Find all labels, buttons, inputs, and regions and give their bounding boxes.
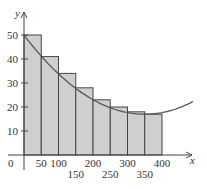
bar — [145, 114, 162, 155]
x-tick-label: 350 — [137, 168, 154, 180]
x-ticks: 50100200300400150250350 — [36, 157, 171, 180]
y-axis-label: y — [14, 7, 20, 19]
bar — [128, 112, 145, 155]
y-tick-label: 40 — [7, 53, 19, 65]
origin-label: 0 — [8, 157, 14, 169]
y-tick-label: 20 — [7, 101, 19, 113]
y-tick-label: 30 — [7, 77, 19, 89]
y-tick-label: 10 — [7, 125, 19, 137]
x-tick-label: 50 — [36, 157, 48, 169]
x-tick-label: 300 — [119, 157, 136, 169]
bar — [93, 100, 110, 155]
bars — [24, 35, 162, 155]
x-tick-label: 150 — [68, 168, 85, 180]
x-tick-label: 400 — [154, 157, 171, 169]
x-tick-label: 250 — [102, 168, 119, 180]
bar — [110, 107, 127, 155]
x-tick-label: 200 — [85, 157, 102, 169]
x-tick-label: 100 — [50, 157, 67, 169]
x-axis-label: x — [189, 154, 195, 166]
y-tick-label: 50 — [7, 29, 19, 41]
riemann-sum-chart: 1020304050 50100200300400150250350 x y 0 — [0, 0, 207, 189]
